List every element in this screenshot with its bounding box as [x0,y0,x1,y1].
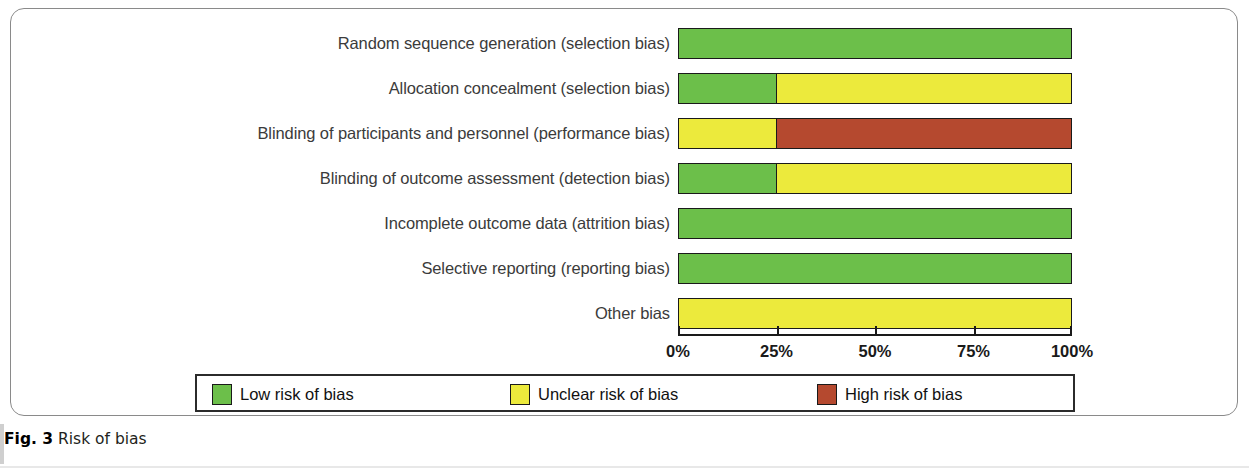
bar-row-label: Blinding of outcome assessment (detectio… [320,163,670,194]
axis-tick-label: 75% [957,342,990,361]
bar-row-label: Blinding of participants and personnel (… [257,118,670,149]
legend-item: High risk of bias [817,383,962,405]
legend-label: Unclear risk of bias [538,385,678,404]
bar-row-label: Allocation concealment (selection bias) [389,73,670,104]
stacked-bar [678,298,1072,329]
legend-item: Unclear risk of bias [510,383,678,405]
legend-item: Low risk of bias [212,383,354,405]
figure-caption-prefix: Fig. 3 [4,430,53,448]
legend-label: High risk of bias [845,385,962,404]
axis-tick-label: 50% [858,342,891,361]
stacked-bar [678,118,1072,149]
bar-segment-low [679,254,1071,283]
figure-caption-text: Risk of bias [53,430,147,448]
axis-tick [875,326,877,336]
bar-row: Selective reporting (reporting bias) [0,253,1249,284]
axis-tick [974,326,976,336]
figure-caption: Fig. 3 Risk of bias [4,430,147,448]
bar-segment-low [679,209,1071,238]
x-axis: 0%25%50%75%100% [678,334,1072,335]
chart-legend: Low risk of biasUnclear risk of biasHigh… [195,374,1075,412]
axis-tick [1070,326,1072,336]
stacked-bar [678,253,1072,284]
stacked-bar [678,28,1072,59]
bar-row: Blinding of participants and personnel (… [0,118,1249,149]
bar-row-label: Other bias [595,298,670,329]
bar-row: Allocation concealment (selection bias) [0,73,1249,104]
bar-segment-unclear [679,119,777,148]
bar-row: Other bias [0,298,1249,329]
bar-segment-unclear [776,164,1071,193]
bar-row: Blinding of outcome assessment (detectio… [0,163,1249,194]
legend-swatch-low [212,384,232,405]
bar-segment-low [679,74,777,103]
legend-label: Low risk of bias [240,385,354,404]
bar-row: Random sequence generation (selection bi… [0,28,1249,59]
bar-segment-low [679,164,777,193]
stacked-bar [678,163,1072,194]
bar-row: Incomplete outcome data (attrition bias) [0,208,1249,239]
legend-swatch-unclear [510,384,530,405]
bar-segment-high [776,119,1071,148]
axis-tick [678,326,680,336]
bar-row-label: Incomplete outcome data (attrition bias) [384,208,670,239]
bar-segment-unclear [776,74,1071,103]
axis-tick-label: 25% [760,342,793,361]
axis-tick-label: 100% [1051,342,1093,361]
legend-swatch-high [817,384,837,405]
bar-segment-low [679,29,1071,58]
stacked-bar [678,208,1072,239]
bar-row-label: Random sequence generation (selection bi… [338,28,670,59]
bar-segment-unclear [679,299,1071,328]
axis-tick-label: 0% [666,342,690,361]
bar-row-label: Selective reporting (reporting bias) [421,253,670,284]
risk-of-bias-chart: Random sequence generation (selection bi… [0,0,1249,468]
stacked-bar [678,73,1072,104]
axis-tick [777,326,779,336]
